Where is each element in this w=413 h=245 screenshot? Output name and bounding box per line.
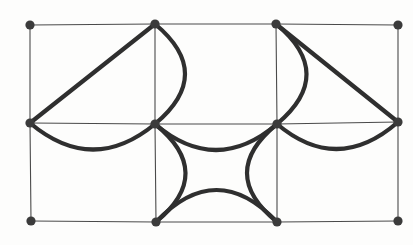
grid-edge [30,123,31,221]
heavy-edge-arc [277,122,398,149]
vertex-n22 [272,217,281,226]
heavy-edge-arc [155,24,185,124]
vertex-n13 [393,117,402,126]
graph-figure: Planar grid graph with curved overlay ed… [0,0,413,245]
vertex-n00 [25,20,34,29]
grid-edge [155,124,156,222]
grid-edge [276,24,398,25]
grid-edge-layer [30,24,398,222]
vertex-n02 [271,19,280,28]
grid-edge [276,24,277,124]
heavy-edge-arc [155,124,277,150]
vertex-n03 [393,20,402,29]
grid-edge [277,122,398,124]
grid-edge [31,221,156,222]
heavy-edge-straight [30,24,155,123]
grid-edge [30,123,155,124]
vertex-n12 [272,119,281,128]
graph-canvas [0,0,413,245]
vertex-n21 [151,217,160,226]
grid-edge [30,24,155,25]
heavy-edge-arc [276,24,307,124]
heavy-edge-arc [156,190,277,222]
heavy-edge-arc [30,123,155,150]
vertex-n10 [25,118,34,127]
vertex-n11 [150,119,159,128]
vertex-n20 [26,216,35,225]
vertex-n23 [393,216,402,225]
grid-edge [277,221,398,222]
vertex-n01 [150,19,159,28]
